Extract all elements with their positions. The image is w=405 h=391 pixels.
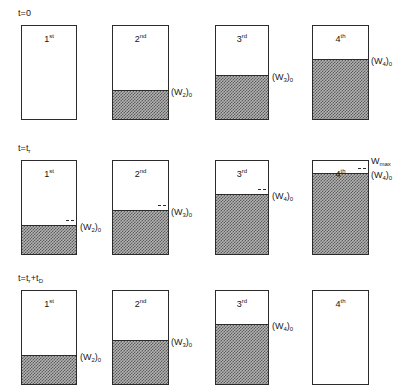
vessel-2nd-row-t0: 2nd xyxy=(112,25,169,120)
vessel-label: 4th xyxy=(313,299,368,309)
vessel-label: 2nd xyxy=(113,34,168,44)
time-label-row-t0: t=0 xyxy=(18,8,31,18)
vessel-3rd-row-t0: 3rd xyxy=(215,25,269,120)
vessel-label: 2nd xyxy=(113,299,168,309)
time-label-row-tr-td: t=tr+tD xyxy=(18,273,43,284)
vessel-label: 3rd xyxy=(216,34,268,44)
vessel-4th-row-t0: 4th xyxy=(312,25,369,120)
vessel-3rd-row-tr-td: 3rd xyxy=(215,290,269,385)
vessel-label: 3rd xyxy=(216,299,268,309)
weight-side-label: (W2)0 xyxy=(80,222,101,233)
level-tick-marker xyxy=(358,168,366,169)
vessel-1st-row-tr-td: 1st xyxy=(21,290,77,385)
vessel-3rd-row-tr: 3rd xyxy=(215,160,269,255)
weight-side-label: (W3)0 xyxy=(171,207,192,218)
vessel-2nd-row-tr: 2nd xyxy=(112,160,169,255)
fill-level xyxy=(22,225,76,254)
process-schematic-diagram: t=01st2nd(W2)03rd(W3)04th(W4)0t=tr1st(W2… xyxy=(0,0,405,391)
weight-side-label: (W4)0 xyxy=(272,191,293,202)
vessel-label: 4th xyxy=(313,34,368,44)
fill-level xyxy=(216,194,268,254)
level-tick-marker xyxy=(258,189,266,190)
fill-level xyxy=(22,355,76,384)
fill-level xyxy=(216,75,268,119)
weight-side-label: (W3)0 xyxy=(272,72,293,83)
fill-level xyxy=(313,173,368,254)
weight-side-label: (W2)0 xyxy=(171,87,192,98)
vessel-label: 4th xyxy=(313,169,368,179)
vessel-label: 1st xyxy=(22,169,76,179)
level-tick-marker xyxy=(66,220,74,221)
level-tick-marker xyxy=(158,205,166,206)
fill-level xyxy=(313,59,368,119)
vessel-label: 1st xyxy=(22,299,76,309)
fill-level xyxy=(113,340,168,384)
weight-side-label: (W4)0 xyxy=(272,321,293,332)
vessel-1st-row-tr: 1st xyxy=(21,160,77,255)
weight-side-label: (W3)0 xyxy=(171,337,192,348)
weight-side-label: (W2)0 xyxy=(80,352,101,363)
vessel-4th-row-tr-td: 4th xyxy=(312,290,369,385)
fill-level xyxy=(216,324,268,384)
time-label-row-tr: t=tr xyxy=(18,143,31,154)
vessel-1st-row-t0: 1st xyxy=(21,25,77,120)
vessel-2nd-row-tr-td: 2nd xyxy=(112,290,169,385)
fill-level xyxy=(113,210,168,254)
vessel-label: 1st xyxy=(22,34,76,44)
weight-side-label: (W4)0 xyxy=(371,170,392,181)
vessel-4th-row-tr: 4th xyxy=(312,160,369,255)
fill-level xyxy=(113,90,168,119)
vessel-label: 2nd xyxy=(113,169,168,179)
max-weight-label: Wmax xyxy=(371,156,391,167)
weight-side-label: (W4)0 xyxy=(371,56,392,67)
vessel-label: 3rd xyxy=(216,169,268,179)
